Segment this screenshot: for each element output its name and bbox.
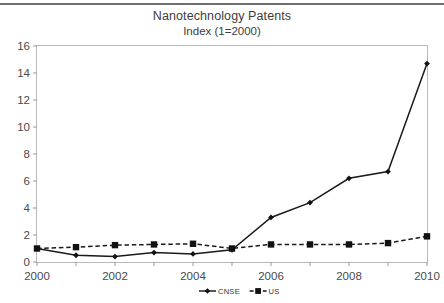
y-axis-tick-label: 8 [24,148,30,160]
x-axis-tick-label: 2008 [336,270,362,282]
data-point-us [112,242,118,248]
legend-label-us: US [269,287,280,296]
data-point-us [73,244,79,250]
data-point-us [34,245,40,251]
x-axis-tick-label: 2000 [24,270,50,282]
x-axis-tick-label: 2010 [414,270,440,282]
y-axis-tick-label: 12 [17,94,30,106]
data-point-us [346,241,352,247]
x-axis-tick-label: 2006 [258,270,284,282]
data-point-us [424,233,430,239]
chart-plot-area: 0246810121416 200020022004200620082010 C… [0,0,444,303]
x-axis-tick-label: 2004 [180,270,206,282]
data-point-us [307,241,313,247]
x-axis-labels: 200020022004200620082010 [24,270,440,282]
y-axis-tick-label: 2 [24,229,30,241]
legend-label-cnse: CNSE [218,287,240,296]
y-axis-tick-label: 0 [24,256,30,268]
data-point-us [268,241,274,247]
x-axis-tick-label: 2002 [102,270,128,282]
y-axis-tick-label: 14 [17,67,30,79]
y-axis-tick-label: 4 [24,202,31,214]
chart-figure: Nanotechnology Patents Index (1=2000) 02… [0,0,444,303]
y-axis-tick-label: 10 [17,121,30,133]
data-point-us [229,245,235,251]
y-axis-tick-label: 6 [24,175,30,187]
legend-marker-us [255,288,261,294]
legend-marker-cnse [205,288,211,294]
data-point-us [385,240,391,246]
plot-frame [37,46,428,263]
data-point-us [151,241,157,247]
y-axis-tick-label: 16 [17,40,30,52]
y-axis-labels: 0246810121416 [17,40,30,268]
data-point-us [190,241,196,247]
chart-legend: CNSEUS [199,287,280,296]
